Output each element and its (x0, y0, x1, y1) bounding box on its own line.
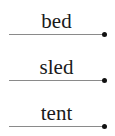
word-label: sled (9, 56, 104, 78)
word-row-sled: sled (0, 46, 115, 92)
word-label: bed (9, 10, 104, 32)
match-dot-icon[interactable] (102, 124, 107, 129)
answer-line (9, 34, 105, 35)
word-row-tent: tent (0, 92, 115, 136)
answer-line (9, 126, 105, 127)
word-label: tent (9, 102, 104, 124)
word-row-bed: bed (0, 0, 115, 46)
match-dot-icon[interactable] (102, 32, 107, 37)
match-dot-icon[interactable] (102, 78, 107, 83)
answer-line (9, 80, 105, 81)
